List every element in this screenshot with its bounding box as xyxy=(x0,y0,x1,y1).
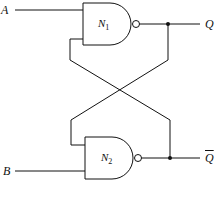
output-label-q: Q xyxy=(205,18,214,30)
gate-label-n1-sub: 1 xyxy=(105,23,109,32)
output-label-qbar: Q xyxy=(205,152,214,164)
gate-label-n2-sub: 2 xyxy=(108,157,112,166)
inversion-bubble-n2 xyxy=(135,155,142,162)
gate-label-n2: N2 xyxy=(101,152,112,166)
junction-dot-qbar xyxy=(168,156,172,160)
wire-n2-feedback-input xyxy=(71,120,85,145)
gate-label-n1: N1 xyxy=(98,18,109,32)
junction-dot-q xyxy=(166,22,170,26)
inversion-bubble-n1 xyxy=(133,21,140,28)
latch-schematic xyxy=(0,0,222,198)
input-label-a: A xyxy=(1,4,8,16)
input-label-b: B xyxy=(3,165,10,177)
wire-n1-feedback-input xyxy=(70,39,83,60)
